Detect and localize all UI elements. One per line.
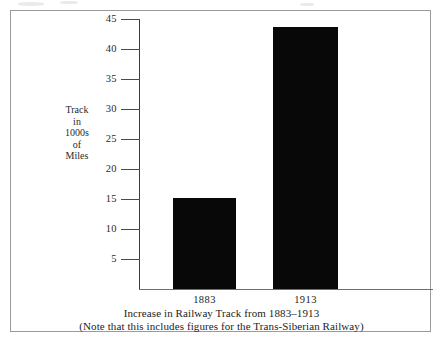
- y-axis-tick-label: 40: [83, 44, 117, 54]
- y-axis-tick: [121, 259, 140, 260]
- y-axis-tick: [121, 79, 140, 80]
- y-axis-tick: [121, 109, 140, 110]
- y-axis-tick-label: 10: [83, 224, 117, 234]
- y-axis-title-line-4: of: [37, 139, 117, 151]
- y-axis-title-line-5: Miles: [37, 150, 117, 162]
- y-axis-tick: [121, 49, 140, 50]
- caption-block: Increase in Railway Track from 1883–1913…: [11, 307, 432, 333]
- y-axis-tick-label: 20: [83, 164, 117, 174]
- figure-frame: 51015202530354045 18831913 Track in 1000…: [10, 10, 431, 332]
- x-axis-label-1913: 1913: [273, 294, 338, 306]
- chart-title: Increase in Railway Track from 1883–1913: [11, 307, 432, 320]
- y-axis-title: Track in 1000s of Miles: [37, 104, 117, 162]
- y-axis-tick-label: 45: [83, 14, 117, 24]
- y-axis-tick: [121, 19, 140, 20]
- bar-1883: [173, 198, 236, 289]
- y-axis-title-line-2: in: [37, 116, 117, 128]
- y-axis-tick: [121, 229, 140, 230]
- y-axis-tick: [121, 169, 140, 170]
- scan-artifact: [300, 3, 314, 6]
- y-axis-tick-label: 35: [83, 74, 117, 84]
- x-axis-label-1883: 1883: [173, 294, 236, 306]
- y-axis-title-line-1: Track: [37, 104, 117, 116]
- bar-1913: [273, 27, 338, 289]
- chart-note: (Note that this includes figures for the…: [11, 320, 432, 333]
- y-axis-tick: [121, 199, 140, 200]
- scan-artifact: [60, 1, 78, 4]
- plot-area: 51015202530354045 18831913 Track in 1000…: [11, 11, 432, 333]
- y-axis-tick: [121, 139, 140, 140]
- y-axis-tick-label: 15: [83, 194, 117, 204]
- y-axis-tick-label: 5: [83, 254, 117, 264]
- x-axis-line: [139, 289, 433, 290]
- scan-artifact: [18, 2, 44, 6]
- y-axis-line: [139, 19, 140, 290]
- y-axis-title-line-3: 1000s: [37, 127, 117, 139]
